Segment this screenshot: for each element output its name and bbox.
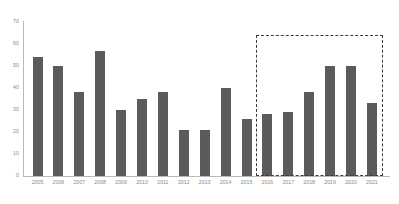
- x-axis-tick-label: 2006: [47, 180, 69, 185]
- x-axis-tick-label: 2014: [215, 180, 237, 185]
- x-axis-tick-label: 2016: [256, 180, 278, 185]
- x-axis-tick-label: 2020: [340, 180, 362, 185]
- x-axis-tick-label: 2009: [110, 180, 132, 185]
- x-axis-tick-label: 2015: [236, 180, 258, 185]
- x-axis-tick-label: 2017: [277, 180, 299, 185]
- x-axis-tick-label: 2013: [194, 180, 216, 185]
- x-axis-tick-label: 2018: [298, 180, 320, 185]
- x-axis-tick-label: 2019: [319, 180, 341, 185]
- x-axis-tick-label: 2010: [131, 180, 153, 185]
- x-axis-tick-label: 2012: [173, 180, 195, 185]
- x-axis-tick-label: 2021: [361, 180, 383, 185]
- x-axis-tick-label: 2011: [152, 180, 174, 185]
- x-axis-tick-labels: 2005200620072008200920102011201220132014…: [0, 0, 399, 204]
- x-axis-tick-label: 2005: [27, 180, 49, 185]
- bar-chart: 010203040506070 200520062007200820092010…: [0, 0, 399, 204]
- x-axis-tick-label: 2007: [68, 180, 90, 185]
- x-axis-tick-label: 2008: [89, 180, 111, 185]
